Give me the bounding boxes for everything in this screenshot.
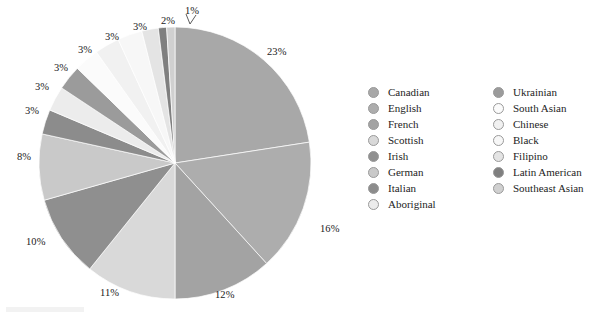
legend-item-label: German — [388, 167, 423, 178]
legend-item-label: French — [388, 119, 419, 130]
legend-item-label: Italian — [388, 183, 416, 194]
legend-item[interactable]: Canadian — [368, 84, 436, 100]
legend-swatch-icon — [493, 103, 504, 114]
legend-item[interactable]: Irish — [368, 148, 436, 164]
pie-percentage-label: 11% — [100, 288, 119, 299]
legend-item[interactable]: Chinese — [493, 116, 584, 132]
pie-percentage-label: 16% — [320, 224, 340, 235]
legend: CanadianEnglishFrenchScottishIrishGerman… — [368, 84, 614, 224]
legend-swatch-icon — [493, 167, 504, 178]
legend-swatch-icon — [493, 151, 504, 162]
pie-slice[interactable] — [175, 27, 309, 163]
legend-item[interactable]: Italian — [368, 181, 436, 197]
pie-percentage-label: 3% — [35, 82, 49, 93]
pie-plot-area: 23%16%12%11%10%8%3%3%3%3%3%3%2%1% — [0, 0, 350, 320]
pie-slice-group — [39, 27, 311, 299]
legend-column-1: CanadianEnglishFrenchScottishIrishGerman… — [368, 84, 436, 213]
pie-percentage-label: 12% — [215, 290, 235, 301]
legend-item[interactable]: Ukrainian — [493, 84, 584, 100]
pie-percentage-label: 3% — [105, 32, 119, 43]
legend-item[interactable]: Aboriginal — [368, 197, 436, 213]
legend-item[interactable]: French — [368, 116, 436, 132]
legend-item[interactable]: English — [368, 100, 436, 116]
legend-item-label: English — [388, 103, 422, 114]
page-artifact — [6, 307, 84, 312]
pie-percentage-label: 3% — [133, 22, 147, 33]
pie-chart-figure: 23%16%12%11%10%8%3%3%3%3%3%3%2%1% Canadi… — [0, 0, 614, 320]
legend-item-label: Aboriginal — [388, 199, 436, 210]
legend-item[interactable]: Southeast Asian — [493, 181, 584, 197]
legend-swatch-icon — [493, 135, 504, 146]
legend-swatch-icon — [368, 167, 379, 178]
legend-column-2: UkrainianSouth AsianChineseBlackFilipino… — [493, 84, 584, 197]
legend-swatch-icon — [368, 103, 379, 114]
legend-item-label: Latin American — [513, 167, 582, 178]
legend-swatch-icon — [368, 119, 379, 130]
legend-swatch-icon — [368, 199, 379, 210]
legend-swatch-icon — [368, 135, 379, 146]
pie-percentage-label: 3% — [25, 106, 39, 117]
legend-item-label: Scottish — [388, 135, 423, 146]
legend-swatch-icon — [493, 183, 504, 194]
legend-item[interactable]: Scottish — [368, 132, 436, 148]
legend-item-label: Filipino — [513, 151, 548, 162]
legend-item-label: Irish — [388, 151, 408, 162]
legend-item-label: Black — [513, 135, 539, 146]
pie-percentage-label: 3% — [54, 63, 68, 74]
legend-swatch-icon — [368, 87, 379, 98]
pie-percentage-label: 23% — [267, 47, 287, 58]
legend-item[interactable]: Filipino — [493, 148, 584, 164]
legend-item[interactable]: South Asian — [493, 100, 584, 116]
pie-svg — [0, 0, 350, 320]
legend-item[interactable]: Latin American — [493, 164, 584, 180]
legend-item-label: Chinese — [513, 119, 548, 130]
pie-percentage-label: 8% — [17, 152, 31, 163]
pie-percentage-label: 2% — [161, 16, 175, 27]
legend-item[interactable]: German — [368, 164, 436, 180]
legend-item[interactable]: Black — [493, 132, 584, 148]
legend-item-label: Canadian — [388, 87, 430, 98]
legend-item-label: Ukrainian — [513, 87, 557, 98]
legend-item-label: Southeast Asian — [513, 183, 584, 194]
legend-swatch-icon — [493, 119, 504, 130]
legend-swatch-icon — [368, 151, 379, 162]
legend-item-label: South Asian — [513, 103, 566, 114]
legend-swatch-icon — [368, 183, 379, 194]
pie-percentage-label: 3% — [78, 45, 92, 56]
pie-percentage-label: 10% — [26, 237, 46, 248]
pie-percentage-label: 1% — [185, 6, 199, 17]
legend-swatch-icon — [493, 87, 504, 98]
